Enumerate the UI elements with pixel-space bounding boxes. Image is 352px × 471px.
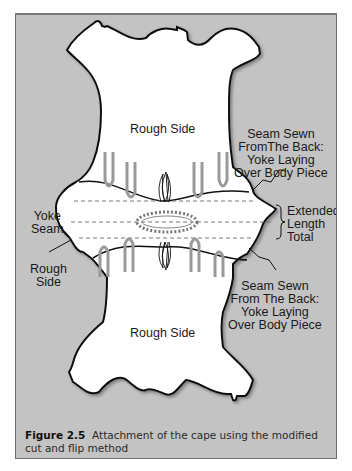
hide-outline [56,21,276,400]
bottom-rough-side-label: Rough Side [130,327,195,340]
extended-length-label: Extended Length Total [287,205,337,244]
rough-side-leader [49,240,71,252]
upper-seam-note: Seam Sewn FromThe Back: Yoke Laying Over… [234,128,328,180]
yoke-seam-label: Yoke Seam [31,210,64,236]
lower-leader [249,248,276,270]
left-rough-side-label: Rough Side [30,263,67,289]
figure-number: Figure 2.5 [25,429,85,441]
figure-caption: Figure 2.5 Attachment of the cape using … [25,429,325,455]
extended-length-brace [276,205,285,239]
lower-seam-note: Seam Sewn From The Back: Yoke Laying Ove… [228,280,322,332]
figure-panel: Rough Side Rough Side Seam Sewn FromThe … [15,13,337,459]
top-rough-side-label: Rough Side [130,123,195,136]
